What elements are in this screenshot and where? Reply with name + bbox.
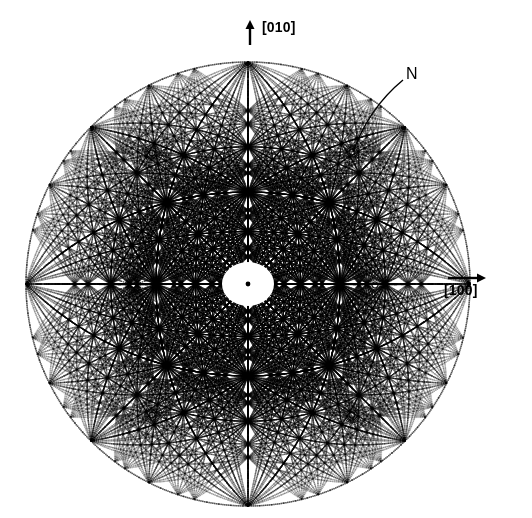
axis-label-100: [100] (444, 283, 478, 297)
figure-root: [010] [100] N (0, 0, 532, 518)
pole-label-n: N (406, 66, 418, 82)
stereographic-projection-plot (0, 0, 532, 518)
axis-label-010: [010] (262, 20, 296, 34)
